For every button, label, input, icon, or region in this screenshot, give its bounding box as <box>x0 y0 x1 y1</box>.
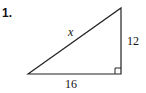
vertical-leg-label: 12 <box>127 34 139 48</box>
horizontal-leg-label: 16 <box>65 77 77 91</box>
right-triangle-diagram: x 12 16 <box>0 0 146 93</box>
hypotenuse-label: x <box>67 25 74 39</box>
right-angle-marker <box>115 68 121 74</box>
triangle <box>28 8 121 74</box>
